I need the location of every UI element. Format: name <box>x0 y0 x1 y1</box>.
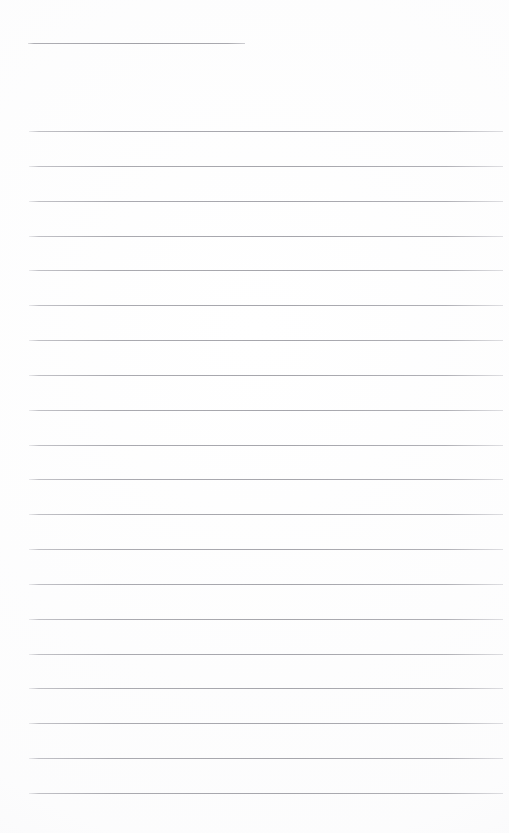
rule-line <box>29 236 503 237</box>
rule-line <box>29 270 503 271</box>
rule-line <box>29 723 503 724</box>
rule-line <box>29 619 503 620</box>
rule-line <box>29 305 503 306</box>
rule-line <box>29 793 503 794</box>
rule-line <box>29 201 503 202</box>
rule-line <box>29 688 503 689</box>
rule-line <box>29 758 503 759</box>
rule-line <box>29 479 503 480</box>
rule-line <box>29 445 503 446</box>
rule-line <box>29 514 503 515</box>
writing-area[interactable] <box>0 0 509 833</box>
rule-line <box>29 549 503 550</box>
document-page <box>0 0 509 833</box>
rule-line <box>29 166 503 167</box>
rule-line <box>29 375 503 376</box>
rule-line <box>29 340 503 341</box>
header-rule <box>28 43 245 44</box>
rule-line <box>29 584 503 585</box>
rule-line <box>29 654 503 655</box>
rule-line <box>29 131 503 132</box>
rule-line <box>29 410 503 411</box>
